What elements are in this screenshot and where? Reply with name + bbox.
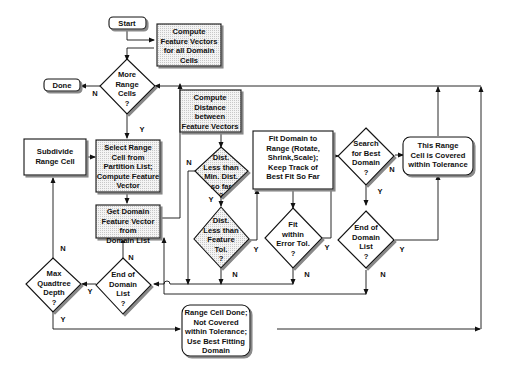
- edge-label: N: [389, 165, 394, 174]
- node-text-line: Depth: [43, 288, 65, 297]
- edge-label: N: [380, 270, 385, 279]
- node-text-line: Use Best Fitting: [187, 337, 245, 346]
- edge-label: Y: [253, 245, 258, 254]
- node-text-line: This Range: [418, 141, 459, 150]
- node-text-line: ?: [121, 299, 126, 308]
- node-text-line: Subdivide: [37, 147, 73, 156]
- node-text-line: Quadtree: [37, 279, 70, 288]
- edge-label: N: [128, 253, 133, 262]
- node-text-line: ?: [52, 298, 57, 307]
- node-text-line: Feature Vectors: [161, 37, 218, 46]
- node-text-line: ?: [291, 249, 296, 258]
- node-text-line: Compute: [173, 27, 206, 36]
- node-text-line: Less than: [203, 163, 239, 172]
- node-text-line: Dist.: [213, 216, 229, 225]
- node-text-line: Domain: [202, 346, 230, 355]
- edge-label: Y: [87, 287, 92, 296]
- subdivide-range-cell-label: SubdivideRange Cell: [35, 147, 74, 166]
- node-text-line: Feature: [207, 235, 234, 244]
- node-text-line: End of: [354, 223, 378, 232]
- node-text-line: Range (Rotate,: [266, 144, 320, 153]
- node-text-line: Domain List: [106, 236, 150, 245]
- node-text-line: Cell from: [112, 153, 145, 162]
- node-text-line: ?: [364, 168, 369, 177]
- edge-label: Y: [60, 315, 65, 324]
- node-text-line: Select Range: [104, 143, 152, 152]
- edge-label: Y: [139, 125, 144, 134]
- node-text-line: for Best: [352, 149, 381, 158]
- node-text-line: within Tolerance: [407, 160, 467, 169]
- node-text-line: Best Fit So Far: [266, 172, 320, 181]
- node-text-line: within: [281, 230, 304, 239]
- node-text-line: Dist.: [213, 153, 229, 162]
- node-text-line: Cell is Covered: [411, 151, 466, 160]
- node-text-line: Partition List;: [104, 162, 153, 171]
- done-label: Done: [53, 81, 72, 90]
- edge-label: N: [232, 270, 237, 279]
- node-text-line: End of: [111, 270, 135, 279]
- node-text-line: Error Tol.: [276, 239, 310, 248]
- node-text-line: ?: [219, 254, 224, 263]
- node-text-line: List: [359, 242, 373, 251]
- node-text-line: Feature Vector: [102, 217, 155, 226]
- node-text-line: Less than: [203, 226, 239, 235]
- node-text-line: ?: [125, 99, 130, 108]
- edge-label: Y: [208, 195, 213, 204]
- node-text-line: Range Cell Done;: [185, 308, 248, 317]
- node-text-line: between: [195, 112, 226, 121]
- edge-label: N: [304, 270, 309, 279]
- node-text-line: Domain: [352, 233, 380, 242]
- fit-domain-label: Fit Domain toRange (Rotate,Shrink,Scale)…: [266, 134, 320, 181]
- node-text-line: within Tolerance;: [184, 327, 247, 336]
- node-text-line: Fit Domain to: [269, 134, 318, 143]
- node-text-line: for all Domain: [164, 46, 215, 55]
- edge-label: N: [186, 158, 191, 167]
- node-text-line: Get Domain: [107, 207, 150, 216]
- node-text-line: so far: [211, 182, 232, 191]
- node-text-line: Compute Feature: [97, 172, 159, 181]
- edge-label: Y: [399, 245, 404, 254]
- node-text-line: Fit: [288, 220, 298, 229]
- edge-label: N: [60, 244, 65, 253]
- node-text-line: List: [116, 289, 130, 298]
- node-text-line: Not Covered: [193, 318, 239, 327]
- node-text-line: Tol.: [215, 245, 228, 254]
- node-text-line: Domain: [109, 280, 137, 289]
- edge-label: Y: [324, 243, 329, 252]
- node-text-line: Domain: [352, 158, 380, 167]
- edge-label: Y: [377, 187, 382, 196]
- node-text-line: Range: [115, 80, 138, 89]
- flowchart-canvas: Start ComputeFeature Vectorsfor all Doma…: [0, 0, 505, 375]
- node-text-line: Vector: [116, 181, 139, 190]
- node-text-line: Search: [353, 139, 379, 148]
- node-text-line: More: [118, 70, 136, 79]
- node-text-line: Shrink,Scale);: [268, 153, 319, 162]
- node-text-line: Min. Dist.: [204, 172, 238, 181]
- node-text-line: Compute: [194, 93, 227, 102]
- node-text-line: Feature Vectors: [182, 122, 239, 131]
- node-text-line: Max: [47, 269, 63, 278]
- edge-label: N: [92, 89, 97, 98]
- node-text-line: ?: [219, 191, 224, 200]
- start-label: Start: [118, 19, 136, 28]
- node-text-line: Cells: [118, 89, 136, 98]
- node-text-line: Range Cell: [35, 157, 74, 166]
- node-text-line: from: [120, 226, 137, 235]
- node-text-line: Cells: [180, 56, 198, 65]
- node-text-line: ?: [364, 252, 369, 261]
- node-text-line: Keep Track of: [268, 163, 318, 172]
- node-text-line: Distance: [194, 103, 226, 112]
